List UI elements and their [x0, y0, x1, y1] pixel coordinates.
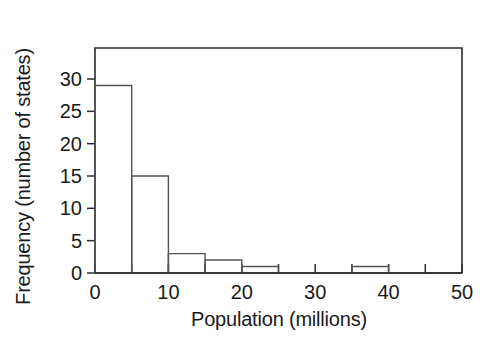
y-tick-label: 25: [60, 100, 82, 122]
x-axis-ticks: 01020304050: [89, 264, 473, 303]
plot-area: 051015202530 01020304050: [0, 0, 490, 353]
histogram-bar: [205, 260, 242, 273]
plot-frame: [95, 48, 462, 273]
histogram-chart: Frequency (number of states) Population …: [0, 0, 490, 353]
histogram-bar: [132, 176, 169, 273]
x-tick-label: 40: [377, 281, 399, 303]
plot-border: [95, 48, 462, 273]
histogram-bar: [95, 85, 132, 273]
x-tick-label: 0: [89, 281, 100, 303]
y-tick-label: 5: [71, 230, 82, 252]
x-tick-label: 10: [157, 281, 179, 303]
y-tick-label: 0: [71, 262, 82, 284]
histogram-bars: [95, 85, 462, 273]
x-tick-label: 30: [304, 281, 326, 303]
histogram-bar: [242, 267, 279, 273]
y-tick-label: 10: [60, 197, 82, 219]
x-tick-label: 20: [231, 281, 253, 303]
y-tick-label: 20: [60, 133, 82, 155]
y-axis-ticks: 051015202530: [60, 68, 95, 284]
y-tick-label: 15: [60, 165, 82, 187]
histogram-bar: [352, 267, 389, 273]
x-tick-label: 50: [451, 281, 473, 303]
y-tick-label: 30: [60, 68, 82, 90]
histogram-bar: [168, 254, 205, 273]
